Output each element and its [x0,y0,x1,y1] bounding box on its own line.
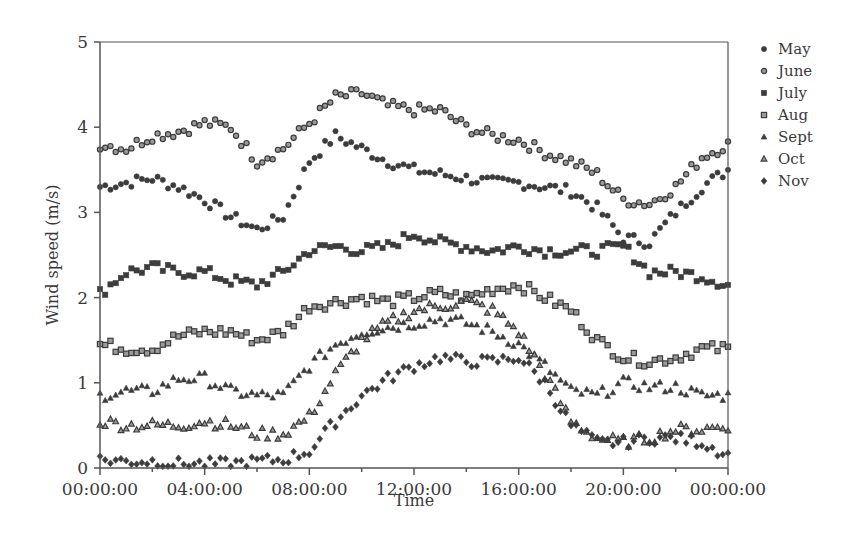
data-point [375,386,381,393]
data-point [422,240,427,245]
data-point [532,352,538,357]
data-point [558,153,563,158]
data-point [349,140,354,145]
data-point [720,426,726,431]
data-point [349,251,354,256]
data-point [233,133,238,138]
data-point [102,423,108,428]
data-point [359,294,364,299]
data-point [699,190,704,195]
data-point [197,420,203,425]
x-tick-label: 16:00:00 [480,479,556,499]
data-point [704,446,710,453]
data-point [139,176,144,181]
data-point [626,375,632,380]
data-point [186,425,192,430]
data-point [453,314,459,319]
data-point [453,242,458,247]
data-point [416,359,422,366]
data-point [265,281,270,286]
data-point [149,417,155,422]
data-point [113,185,118,190]
data-point [118,389,124,394]
data-point [485,287,490,292]
data-point [396,292,401,297]
data-point [254,392,260,397]
data-point [689,200,694,205]
series-june [97,87,730,209]
data-point [694,443,700,450]
wind-speed-chart: 012345 00:00:0004:00:0008:00:0012:00:001… [0,0,849,560]
data-point [511,283,516,288]
data-point [631,232,636,237]
data-point [375,95,380,100]
data-point [647,275,652,280]
data-point [296,126,301,131]
data-point [385,103,390,108]
data-point [354,334,360,339]
data-point [432,171,437,176]
data-point [589,431,595,438]
data-point [259,389,265,394]
data-point [343,94,348,99]
data-point [312,249,317,254]
data-point [710,151,715,156]
data-point [521,142,526,147]
data-point [396,103,401,108]
data-point [469,181,474,186]
data-point [296,314,301,319]
data-point [668,358,673,363]
data-point [600,180,605,185]
data-point [317,400,323,405]
legend-label: June [778,62,812,80]
data-point [620,374,626,379]
data-point [275,147,280,152]
data-point [197,458,203,465]
data-point [202,201,207,206]
data-point [694,347,699,352]
data-point [390,325,396,330]
data-point [249,432,255,437]
data-point [281,147,286,152]
data-point [207,123,212,128]
data-point [218,455,224,462]
data-point [699,156,704,161]
data-point [108,416,114,421]
data-point [521,333,527,338]
data-point [395,369,401,376]
data-point [568,309,573,314]
data-point [558,300,563,305]
x-tick-label: 00:00:00 [690,479,766,499]
data-point [484,354,490,361]
data-point [511,178,516,183]
data-point [579,159,584,164]
data-point [616,357,621,362]
legend-item-oct: Oct [750,148,813,170]
data-point [103,292,108,297]
data-point [616,230,621,235]
data-point [605,241,610,246]
x-axis-title: Time [394,491,434,510]
data-point [689,162,694,167]
x-tick-label: 08:00:00 [271,479,347,499]
data-point [406,364,412,371]
data-point [532,288,537,293]
data-point [437,316,443,321]
data-point [385,164,390,169]
data-point [286,459,292,466]
legend-item-nov: Nov [750,170,813,192]
data-point [212,426,218,431]
data-point [343,141,348,146]
data-point [244,277,249,282]
data-point [233,332,238,337]
data-point [228,282,233,287]
data-point [301,367,307,372]
data-point [474,299,480,304]
data-point [390,303,395,308]
data-point [558,400,564,405]
axes [100,42,728,468]
data-point [165,132,170,137]
data-point [474,291,479,296]
data-point [505,321,511,326]
data-point [155,174,160,179]
